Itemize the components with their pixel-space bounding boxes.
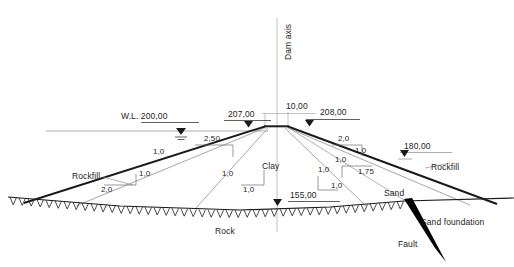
fault-label: Fault (398, 240, 417, 249)
downstream-outer-slope-v-label: 1,0 (355, 147, 366, 155)
fault-wedge (404, 198, 446, 262)
rock-hatch-pattern (10, 197, 404, 217)
upstream-mid-slope-v-label: 1,0 (139, 170, 150, 178)
rock-foundation-label: Rock (215, 227, 235, 236)
elevation-208-label: 208,00 (320, 108, 347, 117)
upstream-mid-slope (76, 128, 266, 207)
downstream-core-slope-v-label: 1,0 (318, 166, 329, 174)
clay-core-label: Clay (262, 162, 279, 171)
slope-triangle-upstream-core (241, 170, 264, 185)
dam-cross-section-figure: Dam axis W.L. 200,00 207,00 10,00 208,00… (0, 0, 514, 267)
sand-foundation-label: Sand foundation (421, 218, 484, 227)
upstream-outer-slope-h-label: 2,50 (204, 135, 220, 143)
elevation-207-label: 207,00 (228, 110, 255, 119)
sand-label: Sand (384, 189, 404, 198)
crest-width-label: 10,00 (286, 102, 308, 111)
rockfill-left-leader (103, 177, 133, 185)
downstream-outer-slope-h-label: 2,0 (338, 135, 349, 143)
elevation-marker-155 (273, 199, 340, 206)
rockfill-downstream-label: Rockfill (431, 163, 459, 172)
downstream-mid-slope-v-label: 1,0 (335, 156, 346, 164)
downstream-mid-slope-h-label: 1,75 (358, 168, 374, 176)
elevation-180-label: 180,00 (404, 142, 431, 151)
rockfill-upstream-label: Rockfill (72, 172, 100, 181)
upstream-outer-slope-v-label: 1,0 (153, 148, 164, 156)
water-level-symbol (175, 128, 187, 140)
water-level-label: W.L. 200,00 (121, 112, 167, 121)
upstream-core-slope-h-label: 1,0 (243, 186, 254, 194)
upstream-outer-slope (24, 127, 265, 204)
elevation-marker-208 (305, 120, 360, 127)
dam-axis-label: Dam axis (284, 24, 293, 60)
upstream-core-slope-v-label: 1,0 (222, 170, 233, 178)
elevation-155-label: 155,00 (290, 191, 317, 200)
upstream-mid-slope-h-label: 2,0 (101, 186, 112, 194)
downstream-core-slope-h-label: 1,0 (331, 182, 342, 190)
elevation-marker-180 (398, 150, 452, 159)
